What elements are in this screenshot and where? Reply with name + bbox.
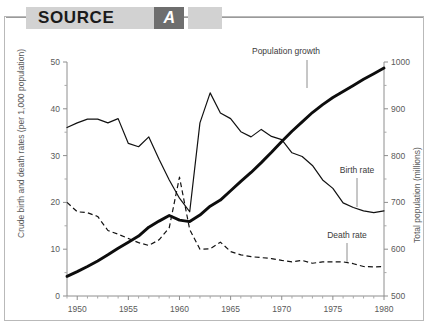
x-axis-tick-label: 1950 [68,304,87,314]
source-badge-letter: A [164,9,176,27]
y-axis-left-ticks: 01020304050 [51,57,67,301]
x-axis-tick-label: 1975 [323,304,342,314]
y-axis-right-tick-label: 700 [391,197,405,207]
y-axis-right-tick-label: 600 [391,244,405,254]
banner-tail-segment [188,7,222,29]
y-axis-right-tick-label: 500 [391,291,405,301]
banner-spacer-segment [128,7,154,29]
x-axis-tick-label: 1955 [119,304,138,314]
population-growth-label: Population growth [252,46,320,56]
y-axis-right-ticks: 5006007008009001000 [384,57,410,301]
y-axis-left-tick-label: 30 [51,151,61,161]
source-badge: A [154,7,184,29]
banner-title-segment: SOURCE [26,7,128,29]
y-axis-left-tick-label: 0 [55,291,60,301]
x-axis-tick-label: 1970 [272,304,291,314]
y-axis-right-tick-label: 800 [391,151,405,161]
y-axis-left-tick-label: 10 [51,244,61,254]
population-growth-line [67,68,384,276]
source-banner: SOURCE A [26,7,222,29]
x-axis-ticks: 1950195519601965197019751980 [67,296,394,314]
x-axis-tick-label: 1960 [170,304,189,314]
x-axis-tick-label: 1980 [375,304,394,314]
y-axis-right-title: Total population (millions) [412,147,422,243]
death-rate-label: Death rate [327,230,367,240]
banner-title: SOURCE [38,8,114,28]
source-a-figure: SOURCE A 01020304050 5006007008009001000… [0,0,428,325]
y-axis-left-title: Crude birth and death rates (per 1,000 p… [16,49,26,238]
y-axis-left-tick-label: 20 [51,197,61,207]
y-axis-right-tick-label: 1000 [391,57,410,67]
y-axis-right-tick-label: 900 [391,104,405,114]
y-axis-left-tick-label: 50 [51,57,61,67]
death-rate-line [67,177,384,267]
data-series-group [67,68,384,276]
y-axis-left-tick-label: 40 [51,104,61,114]
x-axis-tick-label: 1965 [221,304,240,314]
chart-plot-area: 01020304050 5006007008009001000 19501955… [0,0,428,325]
demographic-line-chart: 01020304050 5006007008009001000 19501955… [0,0,428,325]
birth-rate-label: Birth rate [340,165,375,175]
